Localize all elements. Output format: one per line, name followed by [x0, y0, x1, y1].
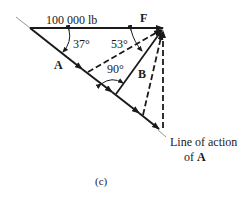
vector-f-label: F — [140, 12, 147, 24]
angle-37-label: 37° — [73, 38, 90, 50]
angle-53-label: 53° — [111, 38, 128, 50]
line-of-action-vector-a: A — [197, 150, 206, 164]
angle-arc-37 — [63, 30, 70, 52]
line-of-action-label-line2: of A — [184, 151, 206, 163]
vector-a-label: A — [54, 59, 63, 71]
angle-90-label: 90° — [107, 63, 124, 75]
force-diagram — [0, 0, 245, 199]
line-of-action-prefix: of — [184, 150, 197, 164]
force-magnitude-label: 100 000 lb — [46, 14, 97, 26]
line-of-action-extension-end — [158, 130, 166, 137]
line-of-action-label-line1: Line of action — [170, 136, 237, 148]
angle-arc-90 — [101, 80, 123, 84]
vector-b-label: B — [138, 68, 146, 80]
figure-caption: (c) — [95, 176, 107, 187]
line-of-action-extension-start — [16, 17, 30, 28]
angle-arc-53 — [131, 30, 142, 51]
